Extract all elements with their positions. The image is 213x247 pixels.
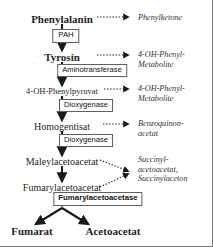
- enzyme-box-dioxygenase-2: Dioxygenase: [59, 134, 113, 147]
- side-metabolite-line: Succinylaceton: [138, 174, 188, 184]
- node-maleylacetoacetat: Maleylacetoacetat: [26, 157, 99, 167]
- side-metabolite-line: 4-OH-Phenyl-: [138, 50, 185, 60]
- node-homogentisat: Homogentisat: [34, 122, 90, 132]
- side-metabolite-line: Metabolite: [138, 94, 185, 104]
- node-phenylalanin: Phenylalanin: [31, 14, 93, 25]
- side-metabolite-line: 4-OH-Phenyl-: [138, 84, 185, 94]
- node-acetoacetat: Acetoacetat: [86, 226, 141, 237]
- enzyme-box-fumarylacetoacetase: Fumarylacetoacetase: [53, 192, 142, 206]
- side-metabolite-succinylaceton: Succinyl- acetoacetat, Succinylaceton: [138, 155, 188, 184]
- side-metabolite-line: acetoacetat,: [138, 165, 188, 175]
- side-metabolite-phenylketone: Phenylketone: [138, 13, 182, 23]
- side-metabolite-line: Succinyl-: [138, 155, 188, 165]
- side-metabolite-line: Phenylketone: [138, 13, 182, 23]
- node-tyrosin: Tyrosin: [44, 52, 80, 63]
- metabolic-pathway-diagram: Phenylalanin Tyrosin 4-OH-Phenylpyruvat …: [0, 0, 213, 247]
- product-split-arrows: [36, 208, 88, 224]
- enzyme-box-aminotransferase: Aminotransferase: [57, 64, 127, 77]
- side-metabolite-benzoquinonacetat: Benzoquinon- acetat: [138, 119, 183, 138]
- enzyme-box-dioxygenase-1: Dioxygenase: [59, 99, 113, 112]
- node-oh-phenylpyruvat: 4-OH-Phenylpyruvat: [26, 87, 98, 96]
- enzyme-box-pah: PAH: [52, 29, 79, 43]
- side-metabolite-line: acetat: [138, 129, 183, 139]
- side-metabolite-line: Benzoquinon-: [138, 119, 183, 129]
- side-metabolite-line: Metabolite: [138, 60, 185, 70]
- side-metabolite-oh-phenyl-metab-2: 4-OH-Phenyl- Metabolite: [138, 84, 185, 103]
- node-fumarat: Fumarat: [11, 226, 53, 237]
- side-metabolite-oh-phenyl-metab-1: 4-OH-Phenyl- Metabolite: [138, 50, 185, 69]
